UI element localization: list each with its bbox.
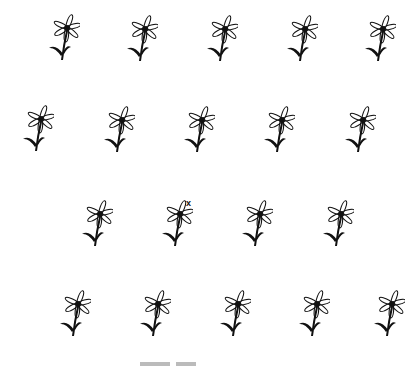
flower-icon	[40, 14, 80, 64]
flower-icon	[255, 106, 295, 156]
flower-icon	[95, 106, 135, 156]
caption-cut-off	[140, 352, 260, 358]
flower-icon	[365, 290, 405, 340]
flower-icon	[233, 200, 273, 250]
flower-icon	[131, 290, 171, 340]
flower-icon	[51, 290, 91, 340]
flower-icon	[336, 106, 376, 156]
flower-icon	[356, 15, 396, 65]
flower-icon	[290, 290, 330, 340]
flower-icon	[175, 106, 215, 156]
flower-icon	[198, 15, 238, 65]
flower-icon	[211, 290, 251, 340]
x-marker: x	[186, 199, 191, 208]
flower-icon	[314, 200, 354, 250]
flower-icon	[14, 105, 54, 155]
flower-icon	[73, 200, 113, 250]
flower-icon	[278, 15, 318, 65]
flower-icon	[118, 15, 158, 65]
